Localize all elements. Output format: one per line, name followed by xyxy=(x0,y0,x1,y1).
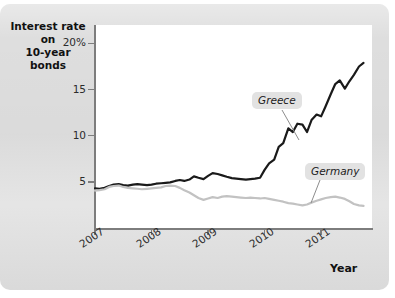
y-tick-20 xyxy=(88,43,94,45)
y-tick-label-20: 20% xyxy=(46,36,86,48)
y-axis-line xyxy=(94,25,96,229)
series-label-greece: Greece xyxy=(252,92,302,109)
y-tick-10 xyxy=(88,135,94,137)
y-axis-tick-labels: 5101520% xyxy=(44,0,86,240)
x-axis-label: Year xyxy=(330,262,357,275)
y-tick-label-5: 5 xyxy=(46,175,86,187)
y-tick-label-15: 15 xyxy=(46,83,86,95)
x-axis-line xyxy=(94,228,373,230)
y-tick-15 xyxy=(88,89,94,91)
y-tick-label-10: 10 xyxy=(46,129,86,141)
series-label-germany: Germany xyxy=(305,163,365,180)
chart-figure: Interest rate on 10-year bonds 5101520% … xyxy=(0,0,395,298)
plot-area xyxy=(95,25,372,228)
y-tick-5 xyxy=(88,181,94,183)
